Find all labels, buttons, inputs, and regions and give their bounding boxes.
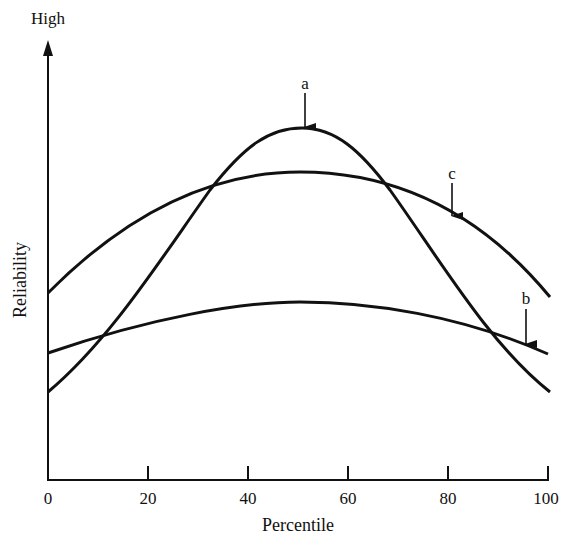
x-axis bbox=[47, 466, 549, 480]
y-axis bbox=[43, 40, 53, 480]
y-axis-arrow-icon bbox=[43, 40, 53, 56]
x-tick-label: 0 bbox=[44, 489, 53, 508]
curve-a bbox=[48, 128, 550, 392]
annotation-c: c bbox=[448, 164, 456, 216]
x-axis-title: Percentile bbox=[262, 515, 334, 535]
x-tick-label: 80 bbox=[440, 489, 457, 508]
x-tick-labels: 0 20 40 60 80 100 bbox=[44, 489, 559, 508]
y-axis-title: Reliability bbox=[10, 242, 30, 318]
x-tick-label: 60 bbox=[340, 489, 357, 508]
annotation-b: b bbox=[522, 289, 531, 344]
y-axis-high-label: High bbox=[31, 9, 66, 28]
reliability-chart: High Reliability 0 20 40 60 80 100 Perce… bbox=[0, 0, 578, 544]
curve-b-label: b bbox=[522, 289, 531, 308]
curve-c bbox=[48, 172, 550, 297]
annotation-a: a bbox=[301, 74, 309, 127]
curve-a-label: a bbox=[301, 74, 309, 93]
x-tick-label: 40 bbox=[240, 489, 257, 508]
x-tick-label: 20 bbox=[140, 489, 157, 508]
x-tick-label: 100 bbox=[533, 489, 559, 508]
curve-c-label: c bbox=[448, 164, 456, 183]
